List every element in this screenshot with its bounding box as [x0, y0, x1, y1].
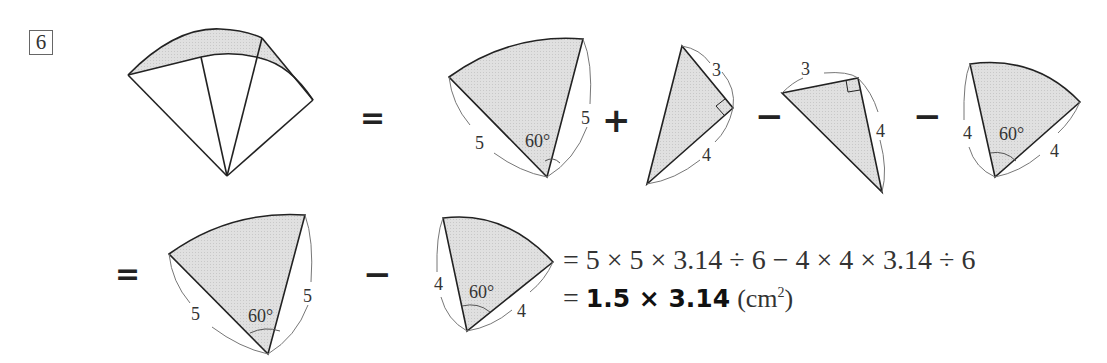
radius-right: [227, 100, 313, 176]
radius-label-right: 4: [517, 301, 526, 321]
equation-line-2: = 1.5 × 3.14 (cm2): [563, 282, 793, 314]
plus-sign: +: [602, 100, 631, 140]
equals-sign: =: [360, 100, 385, 135]
radius-label-right: 5: [303, 286, 312, 306]
shaded-band: [128, 29, 313, 100]
sector-r4-top: 4 4 60°: [963, 63, 1080, 177]
leg-label-4: 4: [702, 145, 711, 165]
radius-label-left: 4: [963, 123, 972, 143]
radius-label-left: 5: [475, 133, 484, 153]
angle-label: 60°: [999, 124, 1024, 144]
minus-sign: −: [755, 96, 784, 136]
sector-r4-bottom: 4 4 60°: [434, 217, 553, 331]
original-figure: [128, 29, 313, 176]
angle-label: 60°: [248, 306, 273, 326]
radius-label-right: 4: [1050, 141, 1059, 161]
chord-right: [262, 38, 313, 100]
leg-label-4: 4: [876, 121, 885, 141]
radius-label-left: 5: [191, 304, 200, 324]
sector-r5-bottom: 5 5 60°: [169, 214, 312, 354]
angle-label: 60°: [469, 282, 494, 302]
unit: (cm2): [737, 284, 793, 313]
minus-sign: −: [913, 96, 942, 136]
answer: 1.5 × 3.14: [586, 284, 730, 313]
triangle-top-b: 3 4: [782, 59, 885, 192]
radius-mid: [201, 57, 227, 176]
equation-line-1: = 5 × 5 × 3.14 ÷ 6 − 4 × 4 × 3.14 ÷ 6: [563, 244, 975, 276]
radius-left: [128, 75, 227, 176]
leg-label-3: 3: [801, 59, 810, 79]
leg-label-3: 3: [712, 60, 721, 80]
radius-midright: [227, 38, 262, 176]
angle-label: 60°: [525, 131, 550, 151]
radius-label-left: 4: [434, 274, 443, 294]
sector-r5-top: 5 5 60°: [449, 38, 591, 177]
minus-sign: −: [363, 254, 392, 294]
geometry-diagram: 5 5 60° 3 4 3 4 4 4 60°: [0, 0, 1107, 363]
equals-prefix: =: [563, 282, 586, 313]
equals-sign: =: [115, 256, 140, 291]
triangle-top-a: 3 4: [647, 46, 734, 184]
radius-label-right: 5: [581, 108, 590, 128]
